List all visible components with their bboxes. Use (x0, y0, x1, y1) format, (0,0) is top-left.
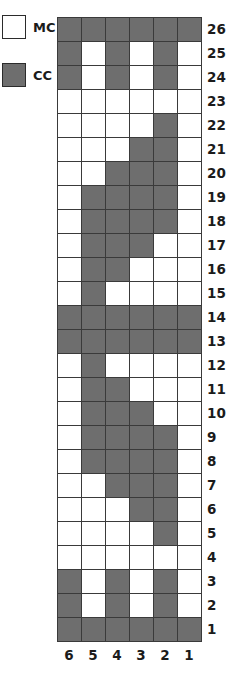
pattern-cell (58, 282, 82, 306)
pattern-row (58, 450, 202, 474)
pattern-cell (130, 522, 154, 546)
pattern-cell (58, 474, 82, 498)
pattern-cell (82, 114, 106, 138)
pattern-cell (106, 378, 130, 402)
pattern-cell (178, 498, 202, 522)
row-number-label: 23 (207, 89, 237, 113)
pattern-cell (58, 330, 82, 354)
pattern-cell (178, 90, 202, 114)
pattern-cell (58, 402, 82, 426)
pattern-cell (82, 570, 106, 594)
pattern-cell (58, 42, 82, 66)
pattern-cell (106, 42, 130, 66)
pattern-cell (154, 114, 178, 138)
pattern-cell (58, 186, 82, 210)
pattern-row (58, 234, 202, 258)
row-number-label: 3 (207, 569, 237, 593)
pattern-grid-wrapper (57, 17, 202, 642)
pattern-cell (106, 18, 130, 42)
pattern-cell (130, 426, 154, 450)
pattern-cell (154, 378, 178, 402)
pattern-cell (106, 114, 130, 138)
pattern-cell (178, 594, 202, 618)
pattern-cell (82, 330, 106, 354)
pattern-cell (178, 306, 202, 330)
pattern-cell (58, 354, 82, 378)
pattern-cell (58, 498, 82, 522)
pattern-cell (106, 282, 130, 306)
pattern-cell (178, 474, 202, 498)
pattern-cell (154, 474, 178, 498)
pattern-cell (154, 618, 178, 642)
row-number-label: 25 (207, 41, 237, 65)
pattern-cell (58, 162, 82, 186)
pattern-cell (178, 522, 202, 546)
pattern-cell (178, 162, 202, 186)
pattern-cell (106, 162, 130, 186)
pattern-cell (106, 426, 130, 450)
pattern-row (58, 210, 202, 234)
pattern-cell (178, 354, 202, 378)
pattern-cell (82, 42, 106, 66)
pattern-cell (58, 258, 82, 282)
row-number-label: 5 (207, 521, 237, 545)
pattern-cell (58, 306, 82, 330)
pattern-cell (82, 66, 106, 90)
pattern-cell (58, 594, 82, 618)
row-number-label: 10 (207, 401, 237, 425)
pattern-cell (130, 234, 154, 258)
pattern-cell (106, 306, 130, 330)
pattern-cell (58, 546, 82, 570)
pattern-row (58, 258, 202, 282)
pattern-cell (58, 66, 82, 90)
pattern-cell (178, 186, 202, 210)
pattern-cell (130, 498, 154, 522)
row-number-label: 16 (207, 257, 237, 281)
pattern-cell (130, 138, 154, 162)
pattern-cell (82, 354, 106, 378)
pattern-cell (106, 210, 130, 234)
pattern-cell (130, 306, 154, 330)
pattern-cell (178, 18, 202, 42)
pattern-cell (58, 426, 82, 450)
pattern-cell (154, 330, 178, 354)
column-number-label: 4 (105, 647, 129, 663)
pattern-cell (58, 90, 82, 114)
pattern-cell (154, 162, 178, 186)
pattern-row (58, 138, 202, 162)
pattern-cell (82, 306, 106, 330)
pattern-cell (106, 138, 130, 162)
pattern-cell (154, 522, 178, 546)
pattern-cell (178, 426, 202, 450)
pattern-cell (82, 594, 106, 618)
pattern-cell (178, 114, 202, 138)
pattern-cell (154, 354, 178, 378)
pattern-row (58, 498, 202, 522)
pattern-cell (82, 618, 106, 642)
pattern-row (58, 618, 202, 642)
pattern-cell (154, 450, 178, 474)
row-number-label: 13 (207, 329, 237, 353)
pattern-cell (106, 546, 130, 570)
pattern-row (58, 42, 202, 66)
pattern-cell (178, 258, 202, 282)
row-number-axis: 2625242322212019181716151413121110987654… (207, 17, 237, 641)
pattern-row (58, 426, 202, 450)
pattern-cell (82, 210, 106, 234)
pattern-cell (130, 258, 154, 282)
legend-swatch-cc (2, 63, 26, 87)
pattern-cell (178, 66, 202, 90)
pattern-cell (130, 114, 154, 138)
pattern-cell (154, 90, 178, 114)
pattern-cell (178, 618, 202, 642)
pattern-cell (130, 162, 154, 186)
pattern-cell (82, 258, 106, 282)
pattern-cell (130, 18, 154, 42)
row-number-label: 1 (207, 617, 237, 641)
chart-legend: MC CC (2, 14, 56, 110)
pattern-cell (82, 186, 106, 210)
pattern-grid (57, 17, 202, 642)
pattern-cell (154, 234, 178, 258)
pattern-cell (106, 498, 130, 522)
pattern-cell (106, 594, 130, 618)
